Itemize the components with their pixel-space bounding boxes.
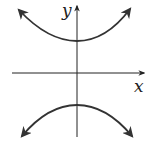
y-axis-label: y: [62, 2, 72, 19]
upper-branch-curve: [19, 9, 130, 41]
x-axis-label: x: [134, 78, 144, 95]
graph-canvas: [0, 0, 148, 143]
hyperbola-diagram: y x: [0, 0, 148, 143]
